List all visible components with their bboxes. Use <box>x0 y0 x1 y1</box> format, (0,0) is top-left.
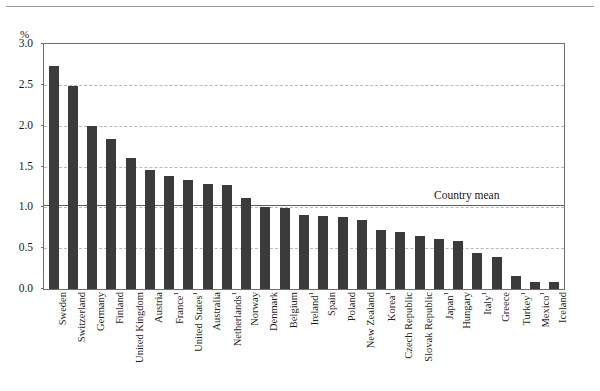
y-tick-label-0.0: 0.0 <box>19 282 33 294</box>
bar-series <box>44 44 564 289</box>
x-axis-label-netherlands: Netherlands1 <box>231 292 243 346</box>
bar-switzerland <box>68 86 78 289</box>
x-axis-label-france: France1 <box>173 292 185 324</box>
bar-ireland <box>299 215 309 289</box>
bar-turkey <box>511 276 521 289</box>
bar-united-states <box>183 180 193 289</box>
x-axis-label-australia: Australia <box>212 292 223 331</box>
bar-new-zealand <box>357 220 367 289</box>
footnote-marker: 1 <box>519 292 527 296</box>
footnote-marker: 1 <box>384 292 392 296</box>
footnote-marker: 1 <box>191 292 199 296</box>
x-axis-label-slovak-republic: Slovak Republic <box>424 292 435 362</box>
x-axis-label-turkey: Turkey1 <box>520 292 532 325</box>
footnote-marker: 1 <box>538 292 546 296</box>
bar-japan <box>434 239 444 289</box>
x-axis-label-ireland: Ireland1 <box>308 292 320 325</box>
bar-korea <box>376 230 386 289</box>
bar-belgium <box>280 208 290 289</box>
top-divider-rule <box>6 6 594 7</box>
x-axis-label-switzerland: Switzerland <box>77 292 88 342</box>
bar-italy <box>472 253 482 289</box>
bar-norway <box>241 198 251 289</box>
footnote-marker: 1 <box>172 292 180 296</box>
x-axis-label-sweden: Sweden <box>58 292 69 325</box>
x-axis-label-japan: Japan1 <box>443 292 455 319</box>
y-tick-label-3.0: 3.0 <box>19 37 33 49</box>
x-axis-label-iceland: Iceland <box>558 292 569 323</box>
bar-czech-republic <box>395 232 405 289</box>
y-tick-label-2.5: 2.5 <box>19 78 33 90</box>
bar-netherlands <box>222 185 232 289</box>
x-axis-label-denmark: Denmark <box>269 292 280 331</box>
footnote-marker: 1 <box>230 292 238 296</box>
x-axis-label-italy: Italy1 <box>481 292 493 315</box>
x-axis-label-group: SwedenSwitzerlandGermanyFinlandUnited Ki… <box>44 292 564 391</box>
footnote-marker: 1 <box>442 292 450 296</box>
bar-finland <box>106 139 116 289</box>
x-axis-label-united-kingdom: United Kingdom <box>135 292 146 363</box>
x-axis-label-poland: Poland <box>347 292 358 321</box>
footnote-marker: 1 <box>307 292 315 296</box>
x-axis-label-new-zealand: New Zealand <box>366 292 377 348</box>
bar-france <box>164 176 174 289</box>
bar-sweden <box>49 66 59 289</box>
x-axis-label-spain: Spain <box>327 292 338 316</box>
y-tick-label-1.5: 1.5 <box>19 160 33 172</box>
bar-united-kingdom <box>126 158 136 289</box>
footnote-marker: 1 <box>480 292 488 296</box>
x-axis-label-germany: Germany <box>96 292 107 331</box>
y-tick-label-0.5: 0.5 <box>19 241 33 253</box>
x-axis-label-belgium: Belgium <box>289 292 300 328</box>
bar-poland <box>338 217 348 289</box>
bar-mexico <box>530 282 540 289</box>
y-tick-label-2.0: 2.0 <box>19 119 33 131</box>
x-axis-label-czech-republic: Czech Republic <box>404 292 415 359</box>
x-axis-label-austria: Austria <box>154 292 165 323</box>
bar-iceland <box>549 282 559 289</box>
bar-spain <box>318 216 328 289</box>
y-axis-tick-group: 0.00.51.01.52.02.53.0 <box>0 43 41 290</box>
bar-australia <box>203 184 213 289</box>
x-axis-label-mexico: Mexico1 <box>539 292 551 328</box>
bar-denmark <box>260 207 270 289</box>
x-axis-label-hungary: Hungary <box>462 292 473 329</box>
y-tick-label-1.0: 1.0 <box>19 200 33 212</box>
bar-hungary <box>453 241 463 289</box>
x-axis-label-greece: Greece <box>501 292 512 322</box>
bar-germany <box>87 126 97 289</box>
x-axis-label-korea: Korea1 <box>385 292 397 321</box>
x-axis-label-finland: Finland <box>115 292 126 324</box>
bar-slovak-republic <box>415 236 425 289</box>
x-axis-label-united-states: United States1 <box>192 292 204 352</box>
bar-greece <box>492 257 502 289</box>
bar-austria <box>145 170 155 289</box>
x-axis-label-norway: Norway <box>250 292 261 326</box>
